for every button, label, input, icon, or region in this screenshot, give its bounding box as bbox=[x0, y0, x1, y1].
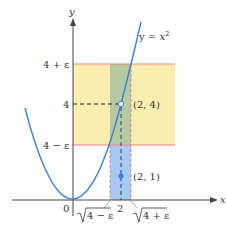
curve-label: y = x2 bbox=[138, 30, 170, 42]
x-axis-arrow-icon bbox=[210, 197, 218, 203]
point-2-4 bbox=[118, 101, 123, 106]
y-tick-mid: 4 bbox=[63, 99, 69, 110]
origin-label: 0 bbox=[63, 203, 69, 214]
y-tick-lower: 4 − ε bbox=[43, 140, 69, 151]
point-label-2-1: (2, 1) bbox=[133, 171, 160, 182]
curve-label-prefix: y = bbox=[138, 31, 159, 42]
y-tick-upper: 4 + ε bbox=[43, 59, 69, 70]
y-axis-label: y bbox=[68, 6, 75, 17]
x-tick-right: 4 + ε bbox=[143, 210, 169, 221]
point-label-2-4: (2, 4) bbox=[133, 99, 160, 110]
x-axis-label: x bbox=[220, 194, 226, 205]
curve-label-exp: 2 bbox=[165, 30, 169, 38]
epsilon-delta-diagram: y x 0 y = x2 4 + ε 4 4 − ε (2, 4) (2, 1)… bbox=[0, 0, 226, 237]
x-tick-mid: 2 bbox=[117, 203, 123, 214]
x-tick-left: 4 − ε bbox=[87, 210, 113, 221]
leader-left bbox=[104, 201, 110, 208]
y-axis-arrow-icon bbox=[70, 18, 76, 26]
leader-right bbox=[131, 201, 137, 208]
point-2-1 bbox=[118, 173, 123, 178]
